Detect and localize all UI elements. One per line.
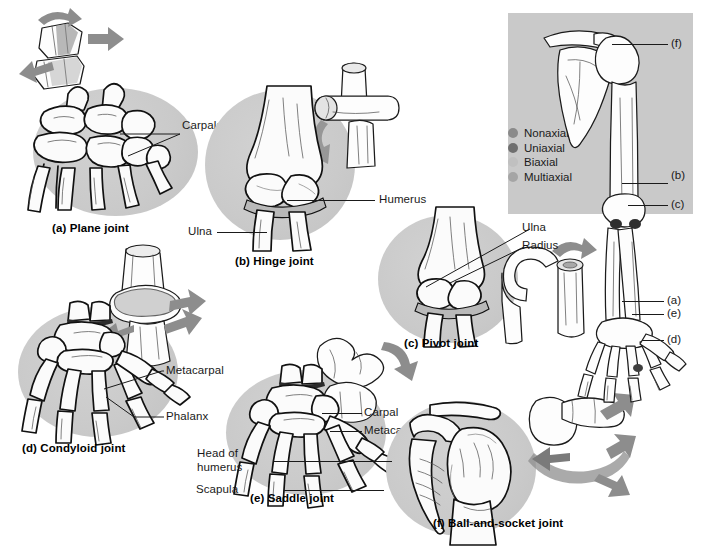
label-ulna-b: Ulna xyxy=(188,225,212,238)
legend-dot-multiaxial xyxy=(508,172,518,182)
caption-saddle-joint: (e) Saddle joint xyxy=(250,492,334,504)
ref-callout-c: (c) xyxy=(671,198,684,210)
elbow-joint-drawing xyxy=(213,86,373,251)
leader-ref-e xyxy=(632,314,664,315)
leader-metacarpal xyxy=(102,365,166,391)
ref-callout-f: (f) xyxy=(671,37,682,49)
leader-head-of-humerus xyxy=(274,461,392,462)
panel-ball-socket-joint: Head of humerus Scapula (f) Ball-and-soc… xyxy=(336,395,636,559)
ref-callout-b: (b) xyxy=(671,169,685,181)
leader-ref-d xyxy=(642,340,664,341)
label-humerus: Humerus xyxy=(379,193,426,206)
leader-phalanx xyxy=(104,395,166,423)
leader-lines-carpals xyxy=(118,112,188,160)
leader-ref-a xyxy=(622,301,664,302)
leader-radius xyxy=(448,245,528,287)
leader-humerus xyxy=(287,200,375,201)
legend-dot-uniaxial xyxy=(508,143,518,153)
joint-types-figure: Carpals (a) Plane joint xyxy=(0,0,708,559)
legend-dot-biaxial xyxy=(508,157,518,167)
label-head-of-humerus-line2: humerus xyxy=(197,461,242,474)
legend-dot-nonaxial xyxy=(508,128,518,138)
label-scapula: Scapula xyxy=(196,483,238,496)
label-phalanx: Phalanx xyxy=(166,410,208,423)
ball-socket-rotation-diagram xyxy=(532,395,640,525)
leader-ref-f xyxy=(612,44,668,45)
ref-callout-a: (a) xyxy=(667,294,681,306)
leader-ref-c xyxy=(628,205,668,206)
leader-ulna-b xyxy=(217,232,267,233)
label-head-of-humerus-line1: Head of xyxy=(197,447,238,460)
ref-callout-d: (d) xyxy=(667,333,681,345)
caption-ball-socket-joint: (f) Ball-and-socket joint xyxy=(433,517,563,529)
caption-condyloid-joint: (d) Condyloid joint xyxy=(22,442,125,454)
ref-callout-e: (e) xyxy=(667,307,681,319)
caption-plane-joint: (a) Plane joint xyxy=(52,222,129,234)
leader-ref-b xyxy=(622,183,668,184)
leader-scapula xyxy=(284,490,384,491)
